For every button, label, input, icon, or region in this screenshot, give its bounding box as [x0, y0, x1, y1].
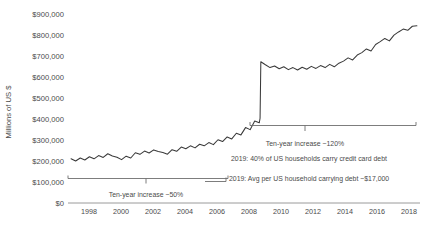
credit-card-debt-line-chart: Millions of US $ $0 $100,000 $200,000 $3… [0, 0, 422, 237]
x-tick-label: 1998 [81, 207, 97, 216]
x-tick-label: 2000 [113, 207, 129, 216]
x-tick-label: 2016 [369, 207, 385, 216]
x-tick-label: 2010 [273, 207, 289, 216]
x-tick-label: 2006 [209, 207, 225, 216]
y-axis-tick-labels: $0 $100,000 $200,000 $300,000 $400,000 $… [32, 10, 64, 207]
data-series-line [71, 26, 417, 161]
y-tick-label: $300,000 [32, 136, 64, 145]
y-tick-label: $400,000 [32, 115, 64, 124]
annotation-late-bracket: Ten-year increase ~120% [250, 122, 416, 148]
x-tick-label: 2014 [337, 207, 353, 216]
y-axis-title: Millions of US $ [4, 85, 13, 139]
y-tick-label: $100,000 [32, 178, 64, 187]
y-tick-label: $600,000 [32, 73, 64, 82]
x-tick-label: 2018 [401, 207, 417, 216]
late-bracket-label: Ten-year increase ~120% [266, 140, 344, 148]
households-share-label: 2019: 40% of US households carry credit … [231, 155, 387, 163]
y-tick-label: $900,000 [32, 10, 64, 19]
x-tick-label: 2012 [305, 207, 321, 216]
y-tick-label: $500,000 [32, 94, 64, 103]
early-bracket-label: Ten-year increase ~50% [109, 191, 184, 199]
x-tick-label: 2008 [241, 207, 257, 216]
y-tick-label: $800,000 [32, 31, 64, 40]
y-tick-label: $700,000 [32, 52, 64, 61]
annotation-avg-household-debt: 2019: Avg per US household carrying debt… [205, 175, 389, 183]
avg-household-debt-label: 2019: Avg per US household carrying debt… [229, 175, 389, 183]
x-tick-label: 2004 [177, 207, 193, 216]
x-axis-tick-labels: 1998 2000 2002 2004 2006 2008 2010 2012 … [81, 207, 417, 216]
y-tick-label: $0 [56, 199, 64, 208]
annotation-early-bracket: Ten-year increase ~50% [68, 176, 228, 200]
y-tick-label: $200,000 [32, 157, 64, 166]
x-tick-label: 2002 [145, 207, 161, 216]
y-axis-title-label: Millions of US $ [4, 85, 13, 139]
chart-svg: Millions of US $ $0 $100,000 $200,000 $3… [0, 0, 422, 237]
